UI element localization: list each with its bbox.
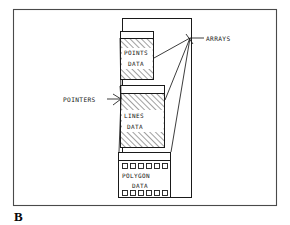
polygon-data-label-line2: DATA xyxy=(132,182,148,189)
polygon-cell xyxy=(123,164,128,169)
polygon-cell xyxy=(147,191,152,196)
polygon-cell xyxy=(155,191,160,196)
lines-data-block: LINES DATA xyxy=(121,86,165,148)
pointers-label: POINTERS xyxy=(63,96,96,103)
figure-panel-b: POINTS DATA LINES DATA PO xyxy=(0,0,290,225)
points-data-header xyxy=(121,32,154,39)
polygon-cell xyxy=(163,191,168,196)
points-data-block: POINTS DATA xyxy=(121,32,154,80)
lines-data-header xyxy=(121,86,165,94)
points-data-label-line2: DATA xyxy=(128,60,144,67)
arrays-label: ARRAYS xyxy=(206,35,230,42)
lines-data-label-line1: LINES xyxy=(124,112,144,119)
polygon-cell xyxy=(139,164,144,169)
diagram-canvas: POINTS DATA LINES DATA PO xyxy=(0,0,290,225)
polygon-data-block: POLYGON DATA xyxy=(119,153,171,198)
polygon-cell xyxy=(155,164,160,169)
polygon-cell xyxy=(131,164,136,169)
panel-letter: B xyxy=(14,209,23,224)
polygon-cell xyxy=(139,191,144,196)
polygon-cell xyxy=(163,164,168,169)
polygon-cell xyxy=(147,164,152,169)
points-data-label-line1: POINTS xyxy=(124,49,148,56)
lines-data-label-line2: DATA xyxy=(127,123,143,130)
polygon-data-label-line1: POLYGON xyxy=(122,172,150,179)
polygon-cell xyxy=(131,191,136,196)
polygon-cell xyxy=(123,191,128,196)
polygon-data-header xyxy=(119,153,171,161)
